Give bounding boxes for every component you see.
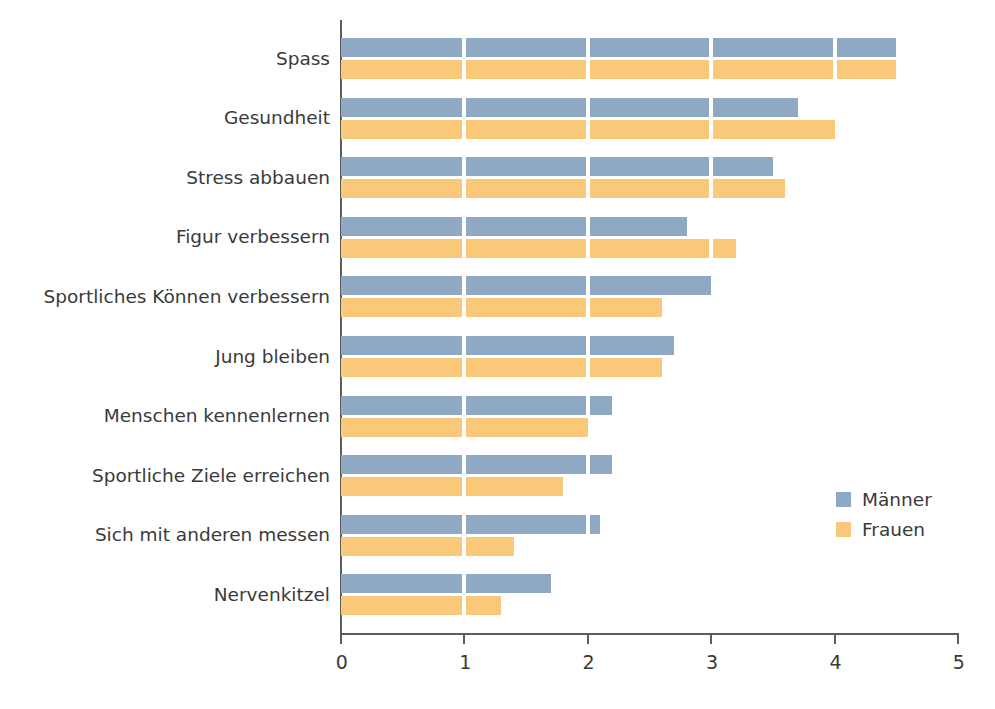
bar-separator [462, 515, 466, 534]
bar-männer[interactable] [341, 455, 612, 474]
bar-separator [833, 38, 837, 57]
bar-separator [833, 60, 837, 79]
bar-männer[interactable] [341, 396, 612, 415]
bar-chart: 012345 SpassGesundheitStress abbauenFigu… [0, 0, 995, 709]
bar-separator [462, 120, 466, 139]
bar-separator [586, 98, 590, 117]
bar-frauen[interactable] [341, 596, 501, 615]
bar-row [341, 239, 958, 258]
bar-männer[interactable] [341, 217, 687, 236]
x-tick-label-5: 5 [939, 651, 979, 673]
bar-row [341, 596, 958, 615]
bar-frauen[interactable] [341, 298, 662, 317]
chart-legend: Männer Frauen [836, 484, 932, 544]
bar-männer[interactable] [341, 38, 896, 57]
category-label: Nervenkitzel [0, 586, 330, 605]
bar-row [341, 336, 958, 355]
bar-separator [586, 38, 590, 57]
bar-männer[interactable] [341, 336, 674, 355]
bar-frauen[interactable] [341, 477, 563, 496]
bar-row [341, 217, 958, 236]
x-tick-label-3: 3 [692, 651, 732, 673]
bar-separator [462, 98, 466, 117]
bar-separator [586, 276, 590, 295]
bar-row [341, 120, 958, 139]
bar-separator [462, 276, 466, 295]
category-label: Stress abbauen [0, 169, 330, 188]
bar-separator [586, 358, 590, 377]
x-tick-3 [710, 633, 712, 644]
bar-row [341, 276, 958, 295]
bar-männer[interactable] [341, 574, 551, 593]
bar-separator [462, 396, 466, 415]
bar-separator [709, 157, 713, 176]
category-label: Sportliche Ziele erreichen [0, 467, 330, 486]
bar-separator [586, 239, 590, 258]
bar-frauen[interactable] [341, 60, 896, 79]
bar-frauen[interactable] [341, 537, 514, 556]
bar-separator [462, 358, 466, 377]
legend-item-maenner[interactable]: Männer [836, 484, 932, 514]
bar-separator [462, 38, 466, 57]
legend-item-frauen[interactable]: Frauen [836, 514, 932, 544]
bar-row [341, 179, 958, 198]
category-label: Menschen kennenlernen [0, 407, 330, 426]
bar-frauen[interactable] [341, 358, 662, 377]
bar-separator [586, 455, 590, 474]
bar-row [341, 574, 958, 593]
category-label: Spass [0, 50, 330, 69]
bar-separator [709, 179, 713, 198]
bar-frauen[interactable] [341, 179, 785, 198]
bar-separator [462, 537, 466, 556]
category-label: Sportliches Können verbessern [0, 288, 330, 307]
x-tick-label-4: 4 [816, 651, 856, 673]
x-tick-label-1: 1 [445, 651, 485, 673]
bar-separator [462, 217, 466, 236]
category-label: Sich mit anderen messen [0, 526, 330, 545]
bar-männer[interactable] [341, 157, 773, 176]
x-tick-label-2: 2 [569, 651, 609, 673]
bar-row [341, 455, 958, 474]
bar-männer[interactable] [341, 276, 711, 295]
bar-separator [462, 179, 466, 198]
bar-separator [462, 60, 466, 79]
bar-separator [586, 157, 590, 176]
bar-separator [709, 239, 713, 258]
bar-separator [586, 336, 590, 355]
category-label: Gesundheit [0, 109, 330, 128]
category-label: Figur verbessern [0, 228, 330, 247]
bar-separator [586, 217, 590, 236]
x-tick-1 [463, 633, 465, 644]
bar-row [341, 38, 958, 57]
bar-row [341, 298, 958, 317]
bar-männer[interactable] [341, 98, 798, 117]
bar-separator [462, 298, 466, 317]
bar-separator [462, 477, 466, 496]
bar-männer[interactable] [341, 515, 600, 534]
bar-separator [462, 239, 466, 258]
bar-separator [586, 396, 590, 415]
bar-separator [462, 455, 466, 474]
bar-separator [462, 574, 466, 593]
x-tick-label-0: 0 [322, 651, 362, 673]
x-tick-2 [587, 633, 589, 644]
bar-row [341, 358, 958, 377]
legend-swatch-frauen-icon [836, 522, 851, 537]
x-axis-line [340, 633, 959, 635]
category-label: Jung bleiben [0, 348, 330, 367]
bar-row [341, 157, 958, 176]
bar-separator [709, 60, 713, 79]
bar-separator [709, 38, 713, 57]
bar-separator [462, 157, 466, 176]
bar-separator [586, 60, 590, 79]
x-tick-4 [834, 633, 836, 644]
bar-separator [462, 596, 466, 615]
bar-row [341, 60, 958, 79]
bar-separator [462, 418, 466, 437]
legend-label-maenner: Männer [862, 489, 932, 510]
legend-swatch-maenner-icon [836, 492, 851, 507]
bar-separator [709, 120, 713, 139]
legend-label-frauen: Frauen [862, 519, 925, 540]
bar-frauen[interactable] [341, 239, 736, 258]
bar-separator [586, 179, 590, 198]
